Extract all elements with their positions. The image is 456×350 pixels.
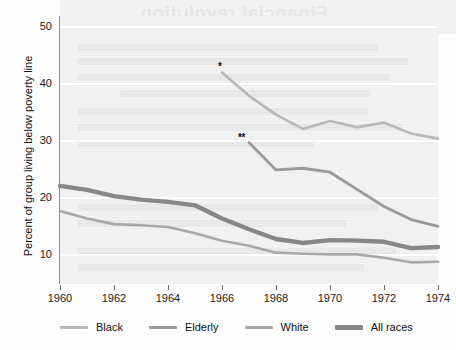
legend-item-white[interactable]: White xyxy=(245,321,309,333)
legend-swatch-white xyxy=(245,326,273,329)
plot-area xyxy=(60,16,438,284)
legend-swatch-elderly xyxy=(149,326,177,329)
x-tick-label-1968: 1968 xyxy=(256,292,296,304)
series-line-white xyxy=(60,211,438,262)
x-tick-mark-1974 xyxy=(438,285,439,290)
x-tick-mark-1966 xyxy=(222,285,223,290)
x-tick-label-1966: 1966 xyxy=(202,292,242,304)
y-axis-title: Percent of group living below poverty li… xyxy=(22,36,34,276)
series-lines xyxy=(60,16,438,284)
legend-label-white: White xyxy=(281,321,309,333)
x-tick-mark-1960 xyxy=(60,285,61,290)
legend-item-black[interactable]: Black xyxy=(60,321,123,333)
legend-swatch-all-races xyxy=(335,325,363,330)
x-tick-mark-1970 xyxy=(330,285,331,290)
y-tick-label-50: 50 xyxy=(26,21,52,32)
x-tick-mark-1964 xyxy=(168,285,169,290)
series-line-black xyxy=(222,72,438,138)
series-line-all-races xyxy=(60,186,438,248)
x-tick-label-1972: 1972 xyxy=(364,292,404,304)
figure-root: Financial revolution 1020304050 19601962… xyxy=(0,0,456,350)
legend-item-all-races[interactable]: All races xyxy=(335,321,413,333)
footnote-marker-elderly: ** xyxy=(238,134,245,142)
x-tick-mark-1962 xyxy=(114,285,115,290)
x-tick-label-1960: 1960 xyxy=(40,292,80,304)
x-tick-label-1964: 1964 xyxy=(148,292,188,304)
series-line-elderly xyxy=(249,143,438,227)
x-tick-label-1974: 1974 xyxy=(418,292,456,304)
legend-label-black: Black xyxy=(96,321,123,333)
legend-label-all-races: All races xyxy=(371,321,413,333)
x-tick-mark-1968 xyxy=(276,285,277,290)
x-tick-label-1970: 1970 xyxy=(310,292,350,304)
chart-legend: BlackElderlyWhiteAll races xyxy=(60,316,456,338)
x-tick-mark-1972 xyxy=(384,285,385,290)
x-tick-label-1962: 1962 xyxy=(94,292,134,304)
legend-label-elderly: Elderly xyxy=(185,321,219,333)
legend-swatch-black xyxy=(60,326,88,329)
legend-item-elderly[interactable]: Elderly xyxy=(149,321,219,333)
footnote-marker-black: * xyxy=(218,63,221,71)
